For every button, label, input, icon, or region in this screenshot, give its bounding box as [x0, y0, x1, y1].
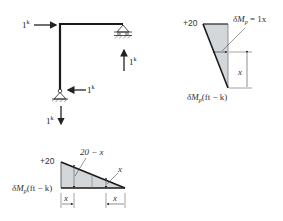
column-moment-diagram: +20 δMp = 1x x δMp(ft − k)	[183, 14, 267, 103]
top-value-label: +20	[183, 18, 198, 28]
annotation-x: x	[117, 164, 122, 174]
axis-label: δMp(ft − k)	[12, 183, 52, 194]
axis-label: δMp(ft − k)	[187, 92, 227, 103]
annotation-20-minus-x: 20 − x	[80, 147, 104, 157]
reaction-right-label: 1k	[129, 56, 137, 67]
roller-support-icon	[114, 25, 132, 39]
top-value-label: +20	[40, 156, 55, 166]
pin-support-icon	[52, 89, 68, 102]
reaction-horizontal-label: 1k	[87, 84, 95, 95]
frame-structure: 1k 1k 1k 1k	[22, 19, 137, 126]
structural-diagram: 1k 1k 1k 1k	[0, 0, 283, 221]
beam-moment-diagram: +20 20 − x x δMp(ft − k) x x	[12, 147, 125, 208]
moment-annotation: δMp = 1x	[233, 14, 267, 25]
reaction-vertical-label: 1k	[46, 115, 54, 126]
dimension-right-label: x	[112, 193, 117, 203]
frame-member	[60, 24, 123, 90]
dimension-left-label: x	[63, 193, 68, 203]
load-label: 1k	[22, 19, 30, 30]
dimension-label: x	[237, 67, 242, 77]
